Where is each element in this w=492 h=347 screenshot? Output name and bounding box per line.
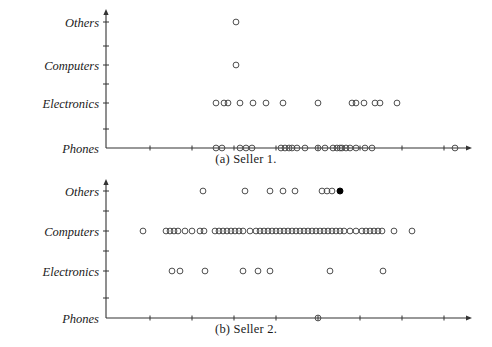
data-point-computers bbox=[379, 228, 385, 234]
series-electronics bbox=[169, 268, 386, 274]
x-axis-arrow-icon bbox=[466, 315, 472, 320]
data-point-computers bbox=[140, 228, 146, 234]
data-point-electronics bbox=[361, 100, 367, 106]
data-point-computers bbox=[341, 228, 347, 234]
panel-seller-2: PhonesElectronicsComputersOthers bbox=[0, 173, 492, 347]
data-point-computers bbox=[201, 228, 207, 234]
data-point-computers bbox=[189, 228, 195, 234]
data-point-computers bbox=[175, 228, 181, 234]
data-point-electronics bbox=[380, 268, 386, 274]
data-point-electronics bbox=[240, 268, 246, 274]
y-axis-arrow-icon bbox=[103, 179, 108, 185]
data-point-others bbox=[292, 188, 298, 194]
data-point-electronics bbox=[327, 268, 333, 274]
series-others bbox=[233, 19, 239, 25]
highlighted-data-point-others bbox=[337, 188, 343, 194]
y-axis-label-others: Others bbox=[65, 185, 99, 199]
data-point-computers bbox=[353, 228, 359, 234]
data-point-electronics bbox=[353, 100, 359, 106]
y-axis-label-computers: Computers bbox=[44, 59, 99, 73]
data-point-computers bbox=[391, 228, 397, 234]
data-point-electronics bbox=[267, 268, 273, 274]
data-point-computers bbox=[347, 228, 353, 234]
series-computers bbox=[233, 62, 239, 68]
data-point-others bbox=[200, 188, 206, 194]
data-point-electronics bbox=[250, 100, 256, 106]
series-electronics bbox=[213, 100, 400, 106]
data-point-computers bbox=[240, 228, 246, 234]
data-point-electronics bbox=[237, 100, 243, 106]
data-point-computers bbox=[247, 228, 253, 234]
scatter-plot-seller-1: PhonesElectronicsComputersOthers bbox=[0, 0, 492, 174]
data-point-electronics bbox=[202, 268, 208, 274]
data-point-computers bbox=[233, 62, 239, 68]
x-axis-arrow-icon bbox=[466, 145, 472, 150]
data-point-electronics bbox=[169, 268, 175, 274]
data-point-computers bbox=[182, 228, 188, 234]
data-point-electronics bbox=[263, 100, 269, 106]
y-axis-arrow-icon bbox=[103, 9, 108, 15]
data-point-others bbox=[280, 188, 286, 194]
data-point-electronics bbox=[177, 268, 183, 274]
caption-seller-2: (b) Seller 2. bbox=[0, 322, 492, 337]
panel-seller-1: PhonesElectronicsComputersOthers bbox=[0, 0, 492, 174]
data-point-electronics bbox=[225, 100, 231, 106]
data-point-others bbox=[267, 188, 273, 194]
data-point-electronics bbox=[280, 100, 286, 106]
data-point-electronics bbox=[394, 100, 400, 106]
y-axis-label-others: Others bbox=[65, 16, 99, 30]
data-point-computers bbox=[409, 228, 415, 234]
y-axis-label-electronics: Electronics bbox=[42, 265, 100, 279]
caption-seller-1: (a) Seller 1. bbox=[0, 152, 492, 167]
data-point-electronics bbox=[255, 268, 261, 274]
data-point-others bbox=[242, 188, 248, 194]
data-point-electronics bbox=[213, 100, 219, 106]
y-axis-label-electronics: Electronics bbox=[42, 97, 100, 111]
y-axis-label-computers: Computers bbox=[44, 225, 99, 239]
data-point-electronics bbox=[315, 100, 321, 106]
series-computers bbox=[140, 228, 415, 234]
series-others bbox=[200, 188, 343, 194]
scatter-plot-seller-2: PhonesElectronicsComputersOthers bbox=[0, 173, 492, 347]
data-point-others bbox=[233, 19, 239, 25]
figure-container: PhonesElectronicsComputersOthers (a) Sel… bbox=[0, 0, 492, 347]
